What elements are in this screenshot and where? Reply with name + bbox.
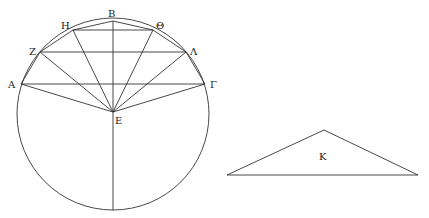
line-e-gamma — [113, 84, 205, 112]
line-e-theta — [113, 30, 153, 112]
line-e-h — [73, 30, 113, 112]
label-beta: Β — [108, 8, 115, 19]
label-zeta: Ζ — [29, 46, 36, 57]
label-kappa: Κ — [319, 151, 327, 162]
label-epsilon: Ε — [115, 115, 122, 126]
label-alpha: Α — [7, 79, 16, 90]
line-e-lambda — [113, 52, 186, 112]
label-theta: Θ — [156, 20, 164, 31]
label-eta: Η — [61, 20, 70, 31]
line-e-z — [40, 52, 113, 112]
label-gamma: Γ — [210, 79, 217, 90]
line-e-a — [21, 84, 113, 112]
label-lambda: Λ — [189, 46, 198, 57]
geometry-figure: Α Ζ Η Β Θ Λ Γ Ε Κ — [0, 0, 429, 218]
